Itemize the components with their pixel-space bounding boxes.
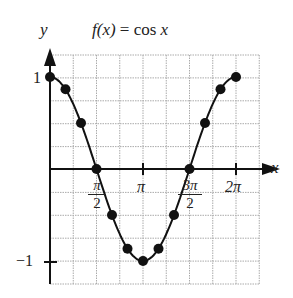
denominator: 2 [93, 195, 101, 211]
data-point [92, 164, 102, 174]
y-axis-arrow-icon [44, 48, 56, 66]
x-tick-pi-half: π2 [88, 178, 106, 211]
data-point [76, 118, 86, 128]
x-tick-three-pi-half: 3π2 [178, 178, 202, 211]
data-point [154, 244, 164, 254]
x-tick-2pi: 2π [225, 178, 241, 196]
data-point [123, 244, 133, 254]
denominator: 2 [186, 195, 194, 211]
y-axis-label: y [40, 20, 48, 40]
data-point [45, 72, 55, 82]
title-eq: = cos [116, 20, 161, 39]
title-x: x [161, 20, 169, 39]
data-point [185, 164, 195, 174]
numerator: 3π [182, 177, 197, 193]
y-tick-1: 1 [33, 69, 41, 87]
chart-title: f(x) = cos x [92, 20, 168, 40]
numerator: π [93, 177, 101, 193]
y-tick-neg-1: −1 [16, 252, 33, 270]
data-point [138, 256, 148, 266]
data-point [107, 210, 117, 220]
data-point [200, 118, 210, 128]
data-point [231, 72, 241, 82]
data-point [61, 84, 71, 94]
title-fx: f(x) [92, 20, 116, 39]
x-axis-label: x [271, 158, 279, 178]
x-tick-pi: π [137, 178, 145, 196]
cosine-plot [0, 0, 293, 298]
data-point [169, 210, 179, 220]
data-point [216, 84, 226, 94]
